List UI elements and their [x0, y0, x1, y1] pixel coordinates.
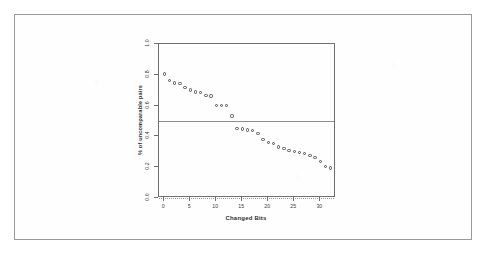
data-point [189, 88, 192, 91]
x-tick-mark [215, 197, 216, 201]
y-tick-label: 0.0 [144, 193, 150, 201]
x-tick-label: 30 [316, 203, 322, 209]
x-tick-mark [293, 197, 294, 201]
y-tick-mark [154, 105, 158, 106]
data-point [168, 79, 171, 82]
x-axis-label: Changed Bits [225, 215, 266, 221]
data-point [204, 94, 207, 97]
x-tick-mark [319, 197, 320, 201]
y-tick-mark [154, 74, 158, 75]
data-point [163, 72, 166, 75]
x-tick-label: 25 [290, 203, 296, 209]
data-point [308, 154, 311, 157]
y-tick-mark [154, 43, 158, 44]
reference-line-0.5 [159, 121, 334, 122]
plot-area [158, 43, 335, 197]
x-tick-mark [189, 197, 190, 201]
data-point [282, 147, 285, 150]
y-tick-mark [154, 197, 158, 198]
y-tick-mark [154, 135, 158, 136]
data-point [277, 145, 280, 148]
data-point [329, 166, 332, 169]
data-point [215, 104, 218, 107]
x-tick-label: 5 [188, 203, 191, 209]
data-point [230, 114, 233, 117]
data-point [241, 127, 244, 130]
y-tick-mark [154, 166, 158, 167]
data-point [324, 165, 327, 168]
y-tick-label: 0.4 [144, 132, 150, 140]
y-tick-label: 0.2 [144, 162, 150, 170]
data-point [256, 132, 259, 135]
data-point [298, 151, 301, 154]
x-tick-mark [163, 197, 164, 201]
data-point [235, 127, 238, 130]
data-point [220, 104, 223, 107]
data-point [251, 129, 254, 132]
data-point [303, 152, 306, 155]
data-point [293, 150, 296, 153]
data-point [272, 142, 275, 145]
data-point [194, 90, 197, 93]
x-tick-mark [267, 197, 268, 201]
data-point [261, 138, 264, 141]
data-point [183, 86, 186, 89]
x-tick-label: 20 [264, 203, 270, 209]
data-point [178, 82, 181, 85]
x-tick-label: 0 [162, 203, 165, 209]
data-point [225, 104, 228, 107]
y-tick-label: 0.6 [144, 101, 150, 109]
y-axis-label: % of uncomparable pairs [137, 85, 143, 155]
data-point [199, 91, 202, 94]
data-point [246, 128, 249, 131]
data-point [267, 141, 270, 144]
data-point [173, 81, 176, 84]
reference-line-0 [159, 198, 334, 199]
data-point [313, 156, 316, 159]
data-point [319, 160, 322, 163]
data-point [287, 149, 290, 152]
scatter-chart: 051015202530 0.00.20.40.60.81.0 Changed … [0, 0, 489, 258]
y-tick-label: 0.8 [144, 70, 150, 78]
data-point [209, 94, 212, 97]
x-tick-mark [241, 197, 242, 201]
y-tick-label: 1.0 [144, 39, 150, 47]
x-tick-label: 10 [212, 203, 218, 209]
x-tick-label: 15 [238, 203, 244, 209]
